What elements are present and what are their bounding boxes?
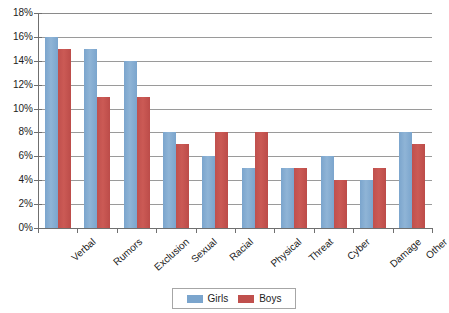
bar-boys-exclusion xyxy=(137,97,150,228)
plot-area xyxy=(38,13,432,228)
bar-group xyxy=(45,13,71,228)
bar-boys-racial xyxy=(215,132,228,228)
legend-label-boys: Boys xyxy=(259,294,281,304)
y-tick-mark xyxy=(34,61,42,62)
y-tick-mark xyxy=(34,132,42,133)
y-tick-label: 14% xyxy=(13,56,33,66)
bar-group xyxy=(242,13,268,228)
x-tick-mark xyxy=(196,228,197,233)
y-tick-mark xyxy=(34,13,42,14)
x-label-threat: Threat xyxy=(306,236,335,264)
x-label-rumors: Rumors xyxy=(111,236,144,268)
x-label-other: Other xyxy=(423,236,449,261)
bar-girls-threat xyxy=(281,168,294,228)
y-tick-label: 10% xyxy=(13,104,33,114)
bar-group xyxy=(124,13,150,228)
y-tick-mark xyxy=(34,85,42,86)
x-tick-mark xyxy=(353,228,354,233)
x-label-damage: Damage xyxy=(388,236,423,269)
y-tick-label: 2% xyxy=(19,199,33,209)
x-tick-mark xyxy=(393,228,394,233)
y-tick-label: 0% xyxy=(19,223,33,233)
x-label-exclusion: Exclusion xyxy=(152,236,191,273)
y-tick-mark xyxy=(34,204,42,205)
bar-group xyxy=(163,13,189,228)
x-tick-mark xyxy=(235,228,236,233)
bar-girls-exclusion xyxy=(124,61,137,228)
bar-group xyxy=(202,13,228,228)
y-tick-label: 18% xyxy=(13,8,33,18)
bar-girls-verbal xyxy=(45,37,58,228)
x-tick-mark xyxy=(314,228,315,233)
bar-girls-other xyxy=(399,132,412,228)
bar-girls-sexual xyxy=(163,132,176,228)
x-label-verbal: Verbal xyxy=(69,236,97,263)
legend-label-girls: Girls xyxy=(208,294,229,304)
x-tick-mark xyxy=(274,228,275,233)
x-tick-mark xyxy=(77,228,78,233)
bar-boys-rumors xyxy=(97,97,110,228)
y-tick-mark xyxy=(34,156,42,157)
legend-entry-girls: Girls xyxy=(187,294,229,304)
bar-group xyxy=(84,13,110,228)
bar-boys-other xyxy=(412,144,425,228)
bar-group xyxy=(360,13,386,228)
bar-girls-rumors xyxy=(84,49,97,228)
x-label-racial: Racial xyxy=(227,236,255,263)
bar-girls-damage xyxy=(360,180,373,228)
girls-swatch-icon xyxy=(187,295,203,303)
y-tick-mark xyxy=(34,180,42,181)
x-tick-mark xyxy=(432,228,433,233)
bar-group xyxy=(321,13,347,228)
bar-boys-verbal xyxy=(58,49,71,228)
bar-girls-cyber xyxy=(321,156,334,228)
bar-boys-threat xyxy=(294,168,307,228)
bar-group xyxy=(281,13,307,228)
x-tick-mark xyxy=(38,228,39,233)
bar-boys-damage xyxy=(373,168,386,228)
legend-entry-boys: Boys xyxy=(238,294,281,304)
x-label-sexual: Sexual xyxy=(189,236,219,265)
y-tick-label: 4% xyxy=(19,175,33,185)
x-label-cyber: Cyber xyxy=(345,236,372,262)
y-tick-label: 12% xyxy=(13,80,33,90)
bar-group xyxy=(399,13,425,228)
bar-boys-sexual xyxy=(176,144,189,228)
y-tick-label: 16% xyxy=(13,32,33,42)
bar-boys-cyber xyxy=(334,180,347,228)
bar-boys-physical xyxy=(255,132,268,228)
y-axis-line xyxy=(38,13,39,229)
x-label-physical: Physical xyxy=(269,236,304,269)
x-tick-mark xyxy=(117,228,118,233)
y-tick-label: 8% xyxy=(19,127,33,137)
chart-legend: Girls Boys xyxy=(172,288,296,309)
y-tick-mark xyxy=(34,109,42,110)
y-tick-label: 6% xyxy=(19,151,33,161)
boys-swatch-icon xyxy=(238,295,254,303)
x-tick-mark xyxy=(156,228,157,233)
bar-girls-racial xyxy=(202,156,215,228)
bar-girls-physical xyxy=(242,168,255,228)
y-tick-mark xyxy=(34,37,42,38)
